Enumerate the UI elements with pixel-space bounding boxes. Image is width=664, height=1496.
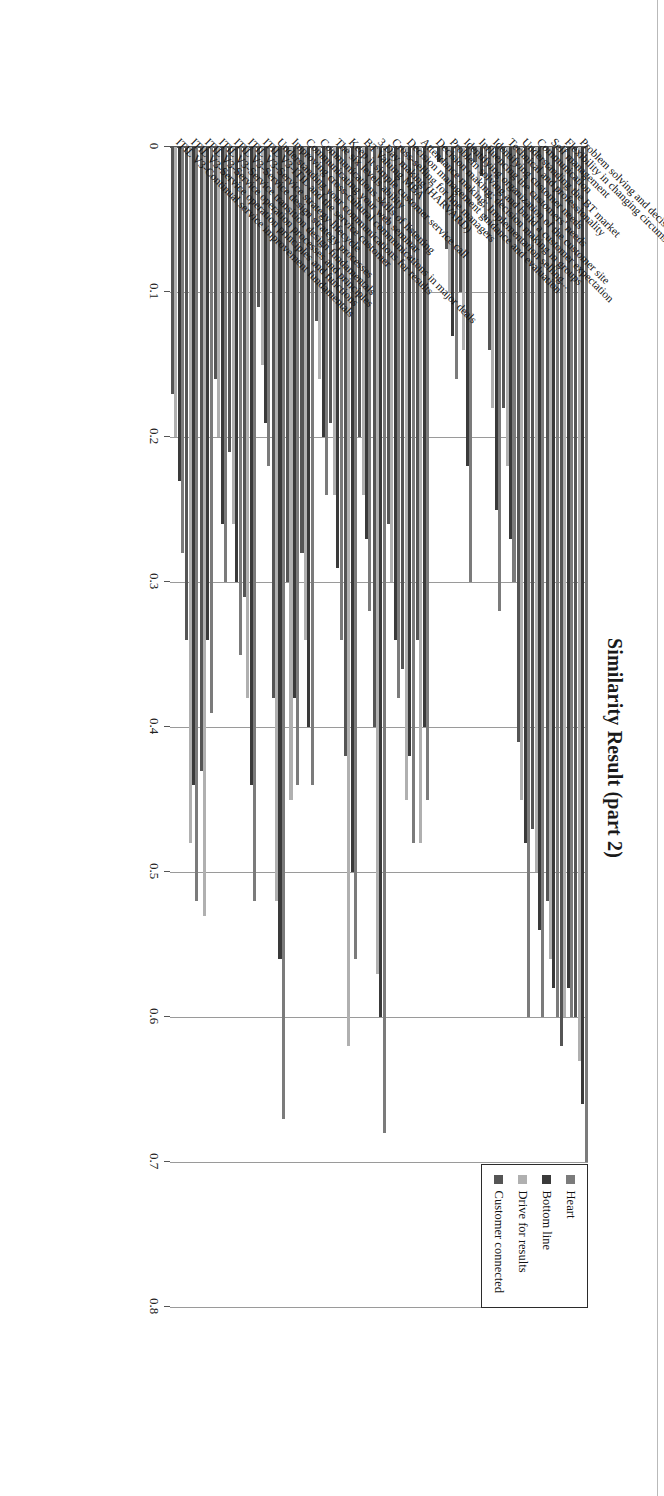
- legend-swatch-icon: [566, 1175, 575, 1184]
- rotated-figure-wrapper: Similarity Result (part 2) 00.10.20.30.4…: [32, 38, 632, 1458]
- legend-swatch-icon: [494, 1175, 503, 1184]
- chart-legend: Heart Bottom line Drive for results Cust…: [481, 1164, 588, 1308]
- legend-item[interactable]: Drive for results: [515, 1175, 530, 1293]
- legend-item[interactable]: Bottom line: [539, 1175, 554, 1293]
- legend-label: Bottom line: [539, 1191, 554, 1250]
- legend-item[interactable]: Heart: [563, 1175, 578, 1293]
- chart-figure: Similarity Result (part 2) 00.10.20.30.4…: [32, 38, 632, 1458]
- category-label: ITIL V3-Continual service improvement fu…: [174, 136, 182, 144]
- legend-item[interactable]: Customer connected: [491, 1175, 506, 1293]
- chart-page: Similarity Result (part 2) 00.10.20.30.4…: [0, 0, 664, 1496]
- legend-label: Customer connected: [491, 1191, 506, 1293]
- legend-label: Heart: [563, 1191, 578, 1219]
- legend-swatch-icon: [518, 1175, 527, 1184]
- legend-label: Drive for results: [515, 1191, 530, 1273]
- legend-swatch-icon: [542, 1175, 551, 1184]
